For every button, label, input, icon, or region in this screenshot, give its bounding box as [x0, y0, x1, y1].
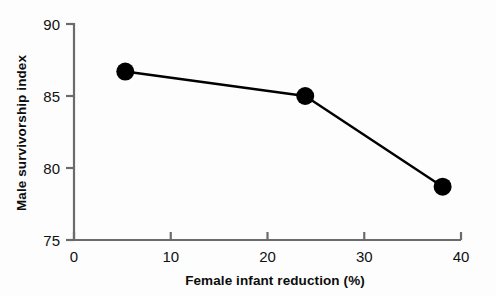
- y-axis-title: Male survivorship index: [14, 55, 29, 211]
- line-chart-canvas: 90 85 80 75 0 10 20 30 40 Female infant …: [0, 0, 496, 296]
- x-tick-label-0: 0: [70, 248, 78, 265]
- x-tick-label-30: 30: [356, 248, 373, 265]
- x-tick-label-20: 20: [259, 248, 276, 265]
- x-tick-label-10: 10: [162, 248, 179, 265]
- x-axis-title: Female infant reduction (%): [185, 273, 365, 288]
- data-point-marker-1: [116, 63, 134, 81]
- y-tick-label-85: 85: [43, 88, 60, 105]
- y-tick-label-80: 80: [43, 160, 60, 177]
- y-tick-label-90: 90: [43, 16, 60, 33]
- data-point-marker-3: [434, 178, 452, 196]
- x-tick-label-40: 40: [453, 248, 470, 265]
- y-tick-label-75: 75: [43, 232, 60, 249]
- chart-figure: 90 85 80 75 0 10 20 30 40 Female infant …: [0, 0, 496, 296]
- data-point-marker-2: [296, 87, 314, 105]
